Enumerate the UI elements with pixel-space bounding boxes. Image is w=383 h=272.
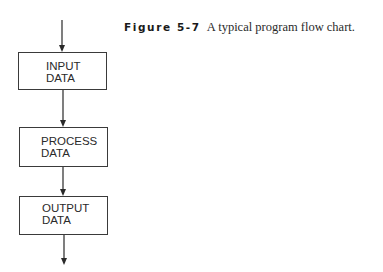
- node-label-line2: DATA: [41, 147, 97, 159]
- arrow-start-to-input: [59, 20, 65, 52]
- figure-number: Figure 5-7: [124, 21, 201, 33]
- flowchart-node-output: OUTPUT DATA: [19, 196, 108, 235]
- node-label-line1: PROCESS: [41, 135, 97, 147]
- figure-caption-text: A typical program flow chart.: [207, 20, 355, 34]
- flowchart-node-input: INPUT DATA: [18, 52, 107, 90]
- figure-caption: Figure 5-7A typical program flow chart.: [124, 17, 355, 35]
- arrow-output-to-end: [61, 235, 67, 265]
- flowchart-diagram: INPUT DATA PROCESS DATA OUTPUT DATA Figu…: [0, 0, 383, 272]
- node-label-line1: INPUT: [46, 60, 81, 72]
- node-label-line2: DATA: [42, 214, 89, 226]
- node-label-line1: OUTPUT: [42, 202, 89, 214]
- node-label-line2: DATA: [46, 72, 81, 84]
- flowchart-node-process: PROCESS DATA: [19, 127, 108, 167]
- arrow-input-to-process: [60, 90, 66, 127]
- arrow-process-to-output: [60, 167, 66, 196]
